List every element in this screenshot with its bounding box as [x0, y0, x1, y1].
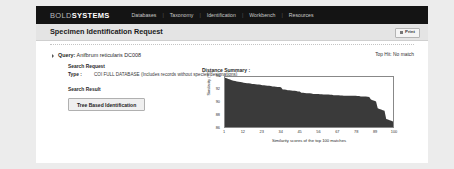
chart-x-tick: 56 — [316, 130, 320, 134]
top-navigation-bar: BOLDSYSTEMS Databases | Taxonomy | Ident… — [36, 6, 428, 24]
bold-systems-logo[interactable]: BOLDSYSTEMS — [50, 11, 110, 20]
top-hit-status: Top Hit: No match — [375, 52, 414, 57]
chart-x-tick: 1 — [223, 130, 225, 134]
chart-x-ticks: 11223344556677889100 — [224, 130, 394, 137]
printer-icon — [400, 31, 403, 34]
chart-y-ticks: 8688909294 — [202, 76, 222, 128]
chart-x-tick: 100 — [391, 130, 398, 134]
nav-item-taxonomy[interactable]: Taxonomy — [164, 12, 200, 18]
chevron-right-icon[interactable] — [52, 54, 54, 58]
chart-title: Distance Summary : — [202, 67, 408, 73]
nav-items: Databases | Taxonomy | Identification | … — [126, 12, 320, 18]
query-header[interactable]: Query: Anifbrum reticularis DC008 Top Hi… — [50, 51, 414, 60]
content-body: Query: Anifbrum reticularis DC008 Top Hi… — [36, 41, 428, 163]
divider — [50, 44, 414, 45]
distance-summary-chart: Distance Summary : Similarity (%) 868890… — [202, 67, 408, 157]
nav-item-identification[interactable]: Identification — [201, 12, 242, 18]
chart-area-series — [225, 77, 393, 127]
query-label: Query: — [58, 52, 75, 58]
print-button[interactable]: Print — [395, 28, 420, 38]
query-title: Query: Anifbrum reticularis DC008 — [58, 52, 141, 58]
browser-page: BOLDSYSTEMS Databases | Taxonomy | Ident… — [0, 0, 454, 169]
chart-y-tick: 94 — [216, 74, 220, 78]
chart-y-tick: 90 — [216, 100, 220, 104]
chart-x-axis-label: Similarity scores of the top 100 matches — [224, 138, 394, 143]
tree-based-identification-label: Tree Based Identification — [77, 102, 136, 108]
page-title-bar: Specimen Identification Request Print — [36, 24, 428, 41]
query-value: Anifbrum reticularis DC008 — [77, 52, 141, 58]
chart-x-tick: 45 — [297, 130, 301, 134]
logo-bold-text: BOLD — [50, 11, 72, 20]
nav-item-databases[interactable]: Databases — [126, 12, 163, 18]
chart-y-tick: 88 — [216, 113, 220, 117]
page-title: Specimen Identification Request — [50, 27, 163, 36]
chart-x-tick: 67 — [335, 130, 339, 134]
tree-based-identification-button[interactable]: Tree Based Identification — [68, 98, 145, 111]
query-result-panel: Query: Anifbrum reticularis DC008 Top Hi… — [50, 51, 414, 159]
chart-y-tick: 86 — [216, 126, 220, 130]
chart-x-tick: 12 — [241, 130, 245, 134]
chart-x-tick: 34 — [278, 130, 282, 134]
print-button-label: Print — [405, 30, 415, 34]
nav-item-workbench[interactable]: Workbench — [243, 12, 281, 18]
search-type-key: Type : — [68, 72, 94, 77]
chart-y-tick: 92 — [216, 87, 220, 91]
search-result-label: Search Result — [68, 87, 101, 92]
chart-x-tick: 89 — [373, 130, 377, 134]
logo-systems-text: SYSTEMS — [72, 11, 110, 20]
search-result-section: Search Result — [68, 87, 101, 92]
chart-x-tick: 78 — [354, 130, 358, 134]
nav-item-resources[interactable]: Resources — [283, 12, 320, 18]
chart-plot-area — [224, 76, 394, 128]
chart-x-tick: 23 — [260, 130, 264, 134]
